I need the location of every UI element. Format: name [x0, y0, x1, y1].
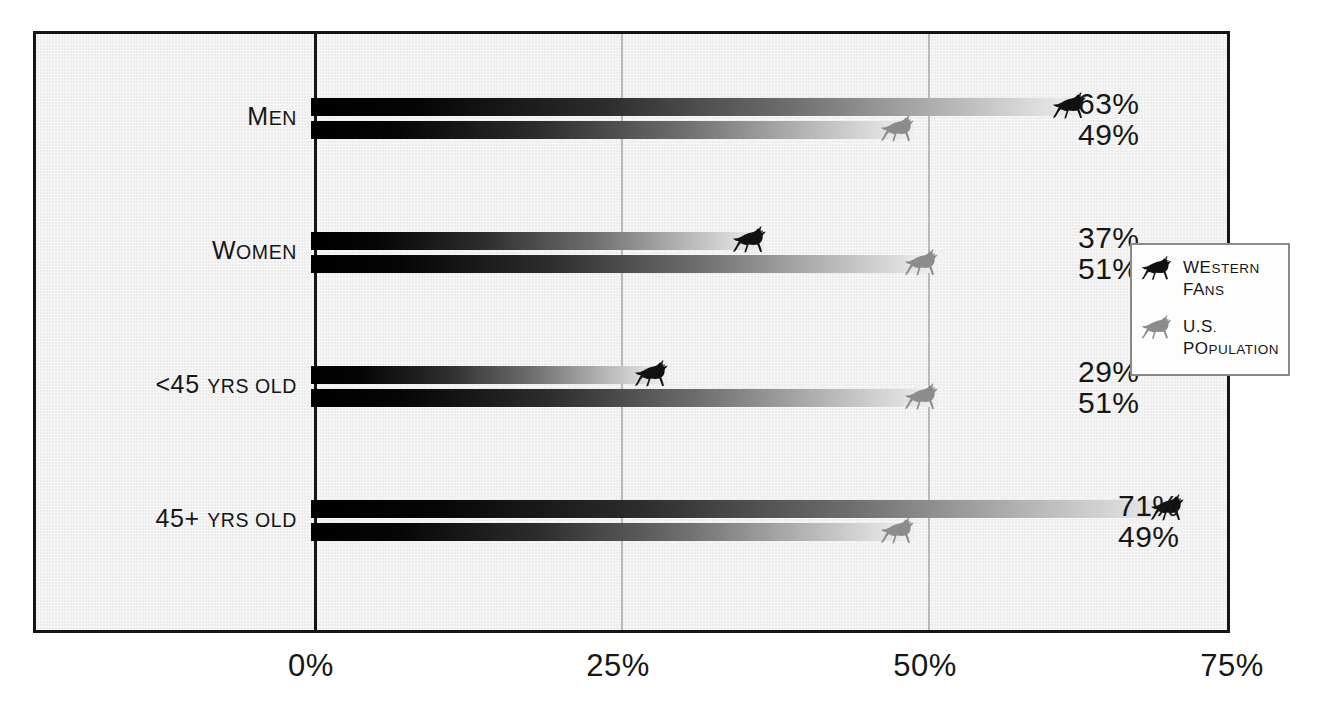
value-label: 51%	[1078, 386, 1140, 420]
horse-icon-gray	[879, 517, 919, 547]
legend-label-us-population: U.S.POPULATION	[1183, 315, 1279, 360]
category-label-1: WOMEN	[40, 236, 297, 265]
bar-u-s-population	[311, 255, 937, 273]
horse-icon-gray	[1140, 315, 1176, 342]
bar-u-s-population	[311, 523, 913, 541]
category-row: <45 YRS OLD29%51%	[0, 364, 1325, 420]
value-label: 71%	[1118, 489, 1180, 523]
value-label: 49%	[1078, 118, 1140, 152]
x-tick-label-50pct: 50%	[893, 648, 957, 684]
bar-u-s-population	[311, 121, 913, 139]
value-label: 49%	[1118, 520, 1180, 554]
bar-western-fans	[311, 232, 765, 250]
legend-item-western-fans: WESTERNFANS	[1140, 256, 1260, 301]
chart-legend: WESTERNFANS U.S.POPULATION	[1130, 243, 1290, 376]
legend-item-us-population: U.S.POPULATION	[1140, 315, 1279, 360]
x-tick-label-25pct: 25%	[586, 648, 650, 684]
bar-u-s-population	[311, 389, 937, 407]
bar-western-fans	[311, 366, 667, 384]
bar-western-fans	[311, 98, 1085, 116]
category-label-0: MEN	[40, 102, 297, 131]
horse-icon-black	[633, 360, 673, 390]
horse-icon-black	[731, 226, 771, 256]
category-label-2: <45 YRS OLD	[40, 370, 297, 399]
horse-icon-gray	[903, 383, 943, 413]
horse-icon-black	[1140, 256, 1176, 283]
category-row: WOMEN37%51%	[0, 230, 1325, 286]
x-tick-label-0pct: 0%	[288, 648, 334, 684]
bar-western-fans	[311, 500, 1183, 518]
value-label: 63%	[1078, 87, 1140, 121]
horse-icon-gray	[903, 249, 943, 279]
category-label-3: 45+ YRS OLD	[40, 504, 297, 533]
x-tick-label-75pct: 75%	[1200, 648, 1264, 684]
legend-label-western-fans: WESTERNFANS	[1183, 256, 1260, 301]
category-row: MEN63%49%	[0, 96, 1325, 152]
category-row: 45+ YRS OLD71%49%	[0, 498, 1325, 554]
horse-icon-gray	[879, 115, 919, 145]
